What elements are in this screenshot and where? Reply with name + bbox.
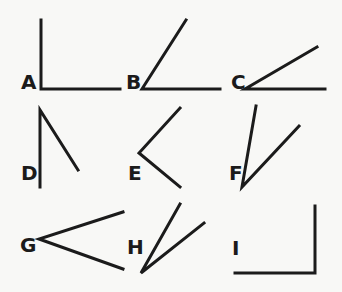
angle-g: G <box>20 212 123 269</box>
angle-h: H <box>127 204 204 273</box>
angle-i-rays <box>235 206 315 273</box>
angle-i-label: I <box>232 236 239 260</box>
angle-h-label: H <box>127 235 144 259</box>
angle-c-label: C <box>231 70 246 94</box>
angle-d: D <box>21 110 78 187</box>
angle-b-rays <box>142 20 220 89</box>
angle-a: A <box>21 20 120 94</box>
angle-g-label: G <box>20 233 36 257</box>
angle-e: E <box>128 108 180 187</box>
angle-c: C <box>231 47 325 94</box>
angle-f-label: F <box>229 161 243 185</box>
angle-a-rays <box>41 20 120 89</box>
angle-b-label: B <box>126 70 141 94</box>
angle-i: I <box>232 206 315 273</box>
angle-a-label: A <box>21 70 37 94</box>
angle-e-label: E <box>128 161 142 185</box>
angle-f-rays <box>242 106 299 187</box>
angle-h-rays <box>141 204 204 273</box>
angle-c-rays <box>245 47 325 89</box>
angle-f: F <box>229 106 299 187</box>
angle-b: B <box>126 20 220 94</box>
angle-e-rays <box>139 108 180 187</box>
angle-g-rays <box>39 212 123 269</box>
angles-diagram: A B C D E F G H I <box>0 0 342 292</box>
angle-d-rays <box>40 110 78 187</box>
angle-d-label: D <box>21 161 38 185</box>
